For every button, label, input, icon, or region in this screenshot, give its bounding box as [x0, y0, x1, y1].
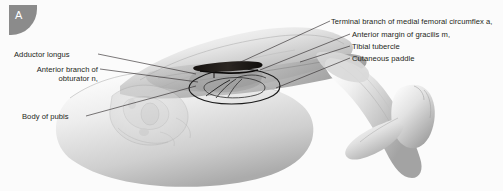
label-anterior-branch-obturator-line1: Anterior branch of	[6, 65, 98, 74]
label-anterior-branch-obturator: Anterior branch of obturator n,	[6, 65, 98, 83]
label-adductor-longus: Adductor longus	[14, 50, 70, 59]
label-tibial-tubercle: Tibial tubercle	[352, 42, 400, 51]
anatomical-illustration	[0, 0, 503, 191]
label-cutaneous-paddle: Cutaneous paddle	[352, 54, 414, 63]
label-anterior-branch-obturator-line2: obturator n,	[6, 74, 98, 83]
label-anterior-margin-gracilis: Anterior margin of gracilis m,	[352, 30, 450, 39]
label-body-of-pubis: Body of pubis	[22, 112, 69, 121]
label-terminal-branch-medial-femoral-circumflex: Terminal branch of medial femoral circum…	[331, 17, 492, 26]
